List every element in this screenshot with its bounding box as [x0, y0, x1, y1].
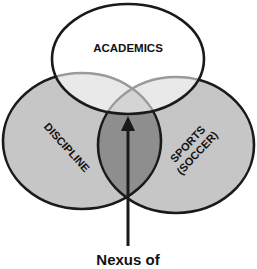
venn-diagram: ACADEMICS DISCIPLINE SPORTS (SOCCER) Nex… [0, 0, 257, 269]
nexus-caption: Nexus of [96, 251, 160, 268]
academics-label: ACADEMICS [93, 42, 163, 54]
